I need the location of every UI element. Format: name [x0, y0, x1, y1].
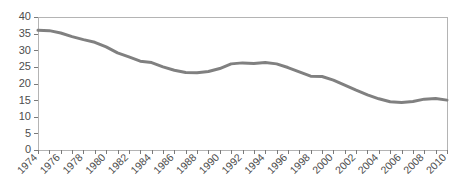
- data-series-line: [38, 30, 447, 102]
- chart-canvas: 0510152025303540 19741976197819801982198…: [0, 0, 464, 184]
- x-axis-tick-labels: 1974197619781980198219841986198819901992…: [14, 151, 448, 176]
- x-tick-label: 1988: [173, 151, 198, 176]
- x-tick-label: 1980: [83, 151, 108, 176]
- y-tick-label: 30: [19, 44, 31, 56]
- x-tick-label: 2002: [333, 151, 358, 176]
- x-tick-label: 1984: [128, 151, 153, 176]
- x-tick-label: 2006: [378, 151, 403, 176]
- plot-frame: [39, 18, 448, 151]
- x-tick-label: 1990: [196, 151, 221, 176]
- x-tick-label: 1994: [242, 151, 267, 176]
- y-tick-label: 15: [19, 94, 31, 106]
- x-tick-label: 2000: [310, 151, 335, 176]
- plot-border: [39, 18, 448, 151]
- y-tick-label: 10: [19, 110, 31, 122]
- y-tick-label: 40: [19, 10, 31, 22]
- x-tick-label: 1982: [105, 151, 130, 176]
- y-axis-tick-labels: 0510152025303540: [19, 10, 31, 155]
- x-tick-label: 1996: [264, 151, 289, 176]
- x-tick-label: 1986: [151, 151, 176, 176]
- y-axis-ticks: [34, 18, 38, 151]
- x-tick-label: 2010: [423, 151, 448, 176]
- y-tick-label: 25: [19, 60, 31, 72]
- x-tick-label: 1978: [60, 151, 85, 176]
- x-tick-label: 1992: [219, 151, 244, 176]
- x-tick-label: 2008: [401, 151, 426, 176]
- x-tick-label: 1974: [14, 151, 39, 176]
- y-tick-label: 20: [19, 77, 31, 89]
- y-tick-label: 5: [25, 127, 31, 139]
- y-tick-label: 35: [19, 27, 31, 39]
- line-chart: 0510152025303540 19741976197819801982198…: [0, 0, 464, 184]
- x-tick-label: 1976: [37, 151, 62, 176]
- x-tick-label: 2004: [355, 151, 380, 176]
- x-tick-label: 1998: [287, 151, 312, 176]
